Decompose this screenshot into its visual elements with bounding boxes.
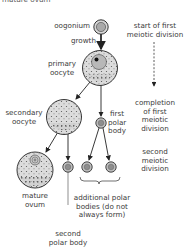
secondary-oocyte-cell [47,100,82,135]
additional-polar-body-cell-2 [106,162,116,172]
oogonium-cell [94,20,108,34]
arrow-to-mature-ovum [46,132,58,152]
label-growth: growth [50,37,96,46]
label-start-first-meiotic-division: start of first meiotic division [124,22,186,39]
label-primary-oocyte: primary oocyte [44,60,80,77]
first-polar-body-cell [96,118,106,128]
label-oogonium: oogonium [44,22,90,31]
second-polar-body-cell [63,162,73,172]
arrows-to-additional-polar-bodies [89,128,109,160]
primary-oocyte-cell [83,51,118,86]
oogenesis-diagram: mature ovum [0,0,189,252]
label-first-polar-body: first polar body [108,110,126,136]
label-second-polar-body: second polar body [44,230,92,247]
label-second-meiotic-division: second meiotic division [126,148,184,174]
additional-polar-body-cell-1 [82,162,92,172]
bracket [80,177,120,184]
label-additional-polar-bodies: additional polar bodies (do not always f… [70,194,134,220]
label-secondary-oocyte: secondary oocyte [4,109,44,126]
label-completion-first-meiotic-division: completion of first meiotic division [126,99,184,133]
label-mature-ovum: mature ovum [17,192,53,209]
mature-ovum-cell [17,152,53,188]
arrow-to-secondary-oocyte [76,82,90,99]
